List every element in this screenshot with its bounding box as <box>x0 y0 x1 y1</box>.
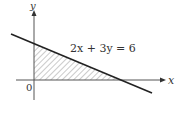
x-axis-label: x <box>168 74 175 87</box>
equation-label: 2x + 3y = 6 <box>70 42 136 55</box>
origin-label: 0 <box>26 82 32 93</box>
linear-inequality-diagram: 2x + 3y = 6 x y 0 <box>0 0 182 121</box>
x-axis-arrow-icon <box>160 78 166 83</box>
y-axis-label: y <box>29 0 36 11</box>
